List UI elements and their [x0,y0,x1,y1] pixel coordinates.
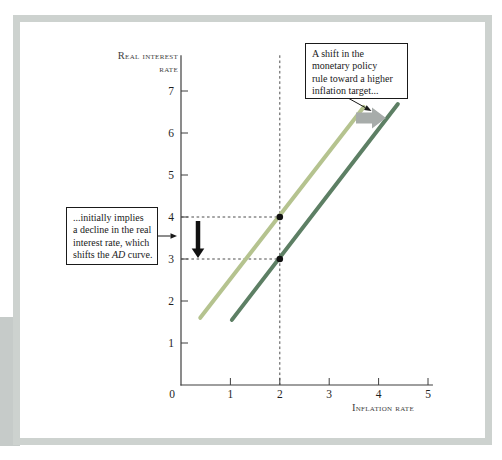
callout-shift-pointer-line [348,98,365,108]
x-tick-label: 2 [277,388,283,400]
y-tick-label: 5 [168,169,174,181]
x-tick-label: 1 [228,388,234,400]
y-tick-label: 4 [168,211,174,223]
callout-decline-pointer-arrowhead [171,233,178,238]
x-axis-title: Inflation rate [330,401,414,414]
policy-rule-line-initial [200,107,364,318]
callout-decline-text-2: curve. [125,249,152,260]
callout-shift-box: A shift in the monetary policy rule towa… [305,43,408,99]
x-tick-label: 3 [326,388,332,400]
y-tick-label: 1 [168,337,174,349]
y-tick-label: 6 [168,127,174,139]
intersection-dot [277,214,284,221]
y-tick-label: 2 [168,295,174,307]
x-tick-label: 5 [425,388,431,400]
x-tick-label: 4 [376,388,382,400]
figure: 1234567012345 Real interest rate Inflati… [0,0,502,460]
intersection-dot [277,256,284,263]
decline-down-arrow-head [192,249,205,259]
callout-shift-text: A shift in the monetary policy rule towa… [312,48,393,96]
policy-rule-line-shifted [232,104,398,320]
callout-decline-italic: AD [112,249,125,260]
y-tick-label: 7 [168,85,174,97]
y-tick-label: 3 [168,253,174,265]
x-tick-label: 0 [169,388,175,400]
y-axis-title: Real interest rate [98,49,178,75]
callout-decline-box: ...initially implies a decline in the re… [66,207,158,265]
